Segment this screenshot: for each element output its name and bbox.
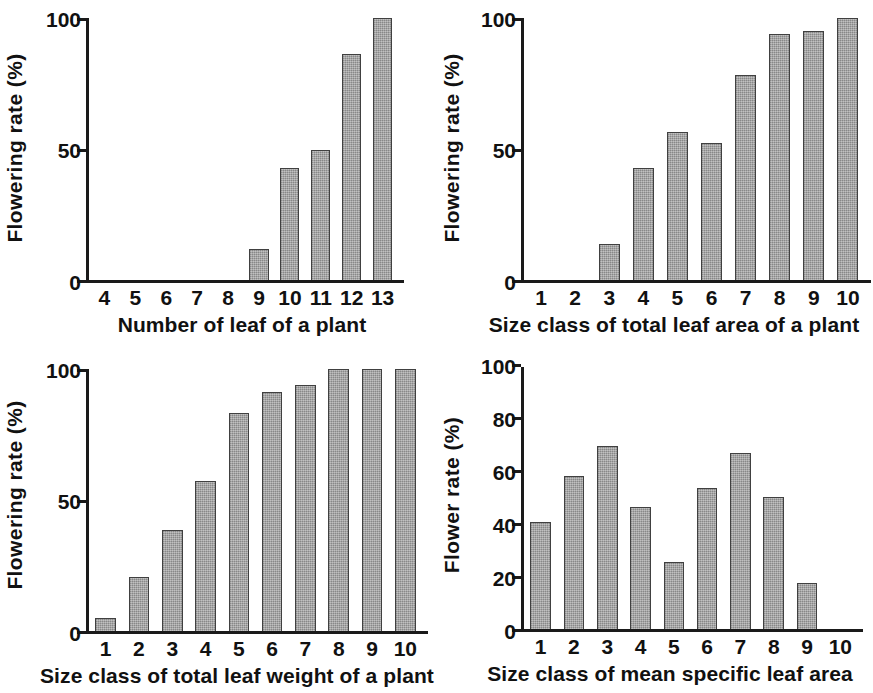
chart-panel-top-right: Flowering rate (%) 050100 12345678910 Si…	[437, 0, 873, 346]
x-axis-title: Number of leaf of a plant	[86, 313, 398, 337]
bar	[564, 476, 585, 629]
y-tick-label: 100	[481, 9, 516, 30]
x-axis-line	[86, 631, 428, 634]
bar	[229, 413, 250, 631]
y-tick-label: 40	[493, 514, 516, 535]
x-tick-labels: 45678910111213	[89, 287, 398, 308]
x-tick-label: 13	[367, 287, 398, 308]
x-tick-label: 7	[729, 287, 763, 308]
y-axis-title: Flowering rate (%)	[435, 2, 469, 294]
x-axis-line	[521, 280, 871, 283]
x-tick-label: 10	[274, 287, 305, 308]
bar-slot	[182, 18, 213, 280]
x-tick-label: 11	[305, 287, 336, 308]
bar	[633, 168, 654, 280]
bar-slot	[222, 369, 255, 631]
x-tick-label: 8	[763, 287, 797, 308]
y-tick-label: 0	[504, 271, 516, 292]
y-axis-title: Flowering rate (%)	[0, 2, 32, 294]
bar-slot	[763, 18, 797, 280]
bar-slot	[591, 367, 624, 629]
x-axis-title: Size class of total leaf weight of a pla…	[40, 664, 430, 688]
x-tick-labels: 12345678910	[524, 287, 865, 308]
x-tick-label: 1	[89, 638, 122, 659]
bar-slot	[89, 18, 120, 280]
x-tick-label: 9	[244, 287, 275, 308]
plot-area-bottom-left: 050100 12345678910 Size class of total l…	[86, 369, 422, 634]
bar-series	[89, 18, 398, 280]
plot-area-bottom-right: 020406080100 12345678910 Size class of m…	[521, 367, 857, 632]
x-tick-label: 4	[189, 638, 222, 659]
bar	[797, 583, 818, 629]
plot-area-top-right: 050100 12345678910 Size class of total l…	[521, 18, 865, 283]
y-tick-label: 100	[46, 9, 81, 30]
x-tick-label: 7	[289, 638, 322, 659]
y-tick: 40	[521, 523, 522, 526]
y-tick-label: 20	[493, 567, 516, 588]
y-tick-label: 100	[46, 360, 81, 381]
bar	[295, 385, 316, 631]
bar	[249, 249, 268, 280]
bar	[311, 150, 330, 280]
bar	[630, 507, 651, 629]
bar-series	[524, 18, 865, 280]
x-tick-label: 3	[591, 636, 624, 657]
x-tick-label: 9	[797, 287, 831, 308]
bar-slot	[729, 18, 763, 280]
y-tick-label: 50	[493, 140, 516, 161]
x-tick-label: 5	[660, 287, 694, 308]
bar	[373, 18, 392, 280]
y-tick-label: 50	[58, 140, 81, 161]
x-tick-label: 10	[824, 636, 857, 657]
bar-slot	[156, 369, 189, 631]
bar-slot	[557, 367, 590, 629]
bar	[599, 244, 620, 280]
y-tick: 100	[521, 18, 522, 21]
x-tick-label: 5	[222, 638, 255, 659]
bar-slot	[797, 18, 831, 280]
x-tick-label: 12	[336, 287, 367, 308]
x-tick-label: 7	[182, 287, 213, 308]
x-tick-label: 8	[757, 636, 790, 657]
x-axis-line	[86, 280, 404, 283]
chart-panel-bottom-right: Flower rate (%) 020406080100 12345678910…	[437, 347, 873, 693]
bar-slot	[355, 369, 388, 631]
chart-panel-bottom-left: Flowering rate (%) 050100 12345678910 Si…	[0, 347, 436, 693]
y-tick: 0	[521, 629, 522, 632]
bar-slot	[244, 18, 275, 280]
bar	[362, 369, 383, 631]
bar-slot	[724, 367, 757, 629]
bar	[730, 453, 751, 629]
x-tick-label: 7	[724, 636, 757, 657]
bar-slot	[524, 18, 558, 280]
bar	[837, 18, 858, 280]
x-tick-label: 6	[255, 638, 288, 659]
x-tick-label: 3	[156, 638, 189, 659]
bar-slot	[151, 18, 182, 280]
bar-slot	[624, 367, 657, 629]
x-tick-label: 8	[322, 638, 355, 659]
bar	[342, 54, 361, 280]
y-axis-title: Flowering rate (%)	[0, 349, 32, 641]
x-tick-label: 2	[122, 638, 155, 659]
chart-panel-top-left: Flowering rate (%) 050100 45678910111213…	[0, 0, 436, 346]
bar	[763, 497, 784, 629]
bar-series	[89, 369, 422, 631]
bar-slot	[120, 18, 151, 280]
x-tick-label: 10	[831, 287, 865, 308]
x-tick-label: 6	[151, 287, 182, 308]
bar	[262, 392, 283, 631]
bar-slot	[694, 18, 728, 280]
y-tick: 50	[521, 149, 522, 152]
x-tick-label: 6	[690, 636, 723, 657]
bar-slot	[336, 18, 367, 280]
bar	[597, 446, 618, 629]
bar-slot	[757, 367, 790, 629]
bar-slot	[690, 367, 723, 629]
x-axis-title: Size class of mean specific leaf area	[475, 662, 865, 686]
x-tick-label: 1	[524, 636, 557, 657]
y-tick-label: 50	[58, 491, 81, 512]
bar-slot	[322, 369, 355, 631]
y-tick: 0	[86, 280, 87, 283]
bar	[530, 522, 551, 629]
